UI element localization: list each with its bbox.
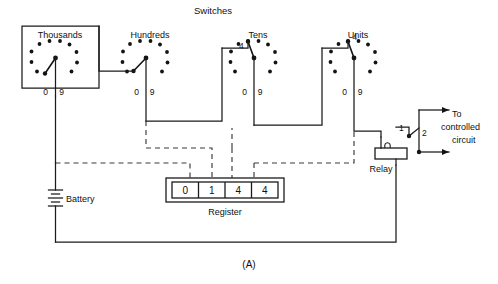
hundreds-to-tens-wire (146, 48, 222, 121)
bottom-return-wire (56, 165, 397, 242)
register: 0 1 4 4 Register (166, 178, 284, 217)
circuit-diagram: Switches Thousands 0 9 (0, 0, 498, 284)
tens-digit-low: 0 (242, 87, 247, 97)
thousands-digit-low: 0 (43, 87, 48, 97)
relay-contact-2-label: 2 (422, 128, 427, 138)
hundreds-label: Hundreds (130, 30, 170, 40)
register-digit-0: 0 (182, 185, 188, 196)
relay-label: Relay (369, 164, 393, 174)
switch-thousands[interactable]: Thousands 0 9 (22, 26, 99, 97)
switch-units[interactable]: Units 4 0 9 (329, 30, 381, 137)
relay-contact-1-label: 1 (399, 123, 404, 133)
units-label: Units (348, 30, 369, 40)
tens-to-units-wire (254, 48, 322, 125)
units-pole-to-relay-wire (354, 58, 381, 137)
output-top-arrow (442, 107, 449, 113)
hundreds-to-tens-contact-wire (222, 42, 248, 49)
figure-caption: (A) (242, 259, 255, 270)
thousands-digit-high: 9 (59, 87, 64, 97)
dashed-thousands-to-register (56, 163, 191, 178)
tens-arm[interactable] (248, 42, 254, 59)
dashed-units-run (254, 131, 354, 163)
dashed-hundreds-to-register (146, 121, 212, 178)
output-line-1: To (452, 109, 462, 119)
relay-blade (409, 110, 419, 136)
hundreds-digit-low: 0 (134, 87, 139, 97)
circuit-svg: Switches Thousands 0 9 (0, 0, 498, 284)
switch-hundreds[interactable]: Hundreds 0 9 (121, 30, 170, 121)
switches-title: Switches (194, 5, 232, 16)
register-label: Register (208, 207, 242, 217)
output-bottom-arrow (442, 149, 449, 155)
register-digit-1: 1 (209, 185, 215, 196)
units-arm[interactable] (348, 42, 354, 59)
units-digit-low: 0 (342, 87, 347, 97)
battery: Battery (49, 163, 96, 242)
register-digit-2: 4 (235, 185, 241, 196)
battery-label: Battery (66, 194, 95, 204)
thousands-arm[interactable] (45, 58, 56, 74)
thousands-to-hundreds-wire (99, 26, 134, 71)
tens-digit-high: 9 (258, 87, 263, 97)
units-selected-label: 4 (353, 32, 358, 42)
output-line-3: circuit (452, 135, 476, 145)
switch-tens[interactable]: Tens 4 0 9 (229, 30, 278, 125)
relay-body (375, 148, 407, 159)
tens-selected-label: 4 (239, 41, 244, 51)
hundreds-digit-high: 9 (150, 87, 155, 97)
units-digit-high: 9 (358, 87, 363, 97)
hundreds-arm[interactable] (134, 58, 147, 71)
relay: Relay (369, 137, 407, 174)
thousands-selected-contact (43, 71, 47, 75)
thousands-label: Thousands (38, 30, 83, 40)
register-digit-3: 4 (262, 185, 268, 196)
tens-label: Tens (248, 30, 268, 40)
relay-coil-icon (385, 143, 391, 148)
output-line-2: controlled (441, 122, 480, 132)
tens-to-units-contact-wire (322, 42, 348, 49)
